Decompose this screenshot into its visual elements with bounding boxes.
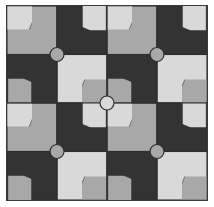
pinwheel-tile <box>107 103 157 152</box>
junction-center <box>100 96 114 110</box>
artwork-root <box>0 0 214 207</box>
pinwheel-tile <box>107 6 157 55</box>
pinwheel-tile <box>157 6 207 55</box>
pinwheel-tile <box>57 6 107 55</box>
pinwheel-tile <box>107 151 157 200</box>
pinwheel-tile <box>7 54 57 104</box>
junction-top-right <box>150 48 164 62</box>
pinwheel-tile <box>157 55 207 104</box>
pattern-canvas <box>7 6 207 200</box>
junction-top-left <box>50 48 64 62</box>
junction-bottom-left <box>50 145 64 159</box>
pinwheel-tile <box>157 102 207 152</box>
pattern-frame <box>6 5 208 201</box>
tile-grid <box>7 6 207 200</box>
pinwheel-tile <box>7 151 57 200</box>
pinwheel-tile <box>107 54 157 104</box>
pinwheel-tile <box>57 152 107 201</box>
pinwheel-tile <box>7 103 57 152</box>
pinwheel-tile <box>157 152 207 201</box>
junction-bottom-right <box>150 145 164 159</box>
pinwheel-tile <box>7 6 57 55</box>
pinwheel-tile <box>57 102 107 152</box>
pinwheel-tile <box>57 55 107 104</box>
